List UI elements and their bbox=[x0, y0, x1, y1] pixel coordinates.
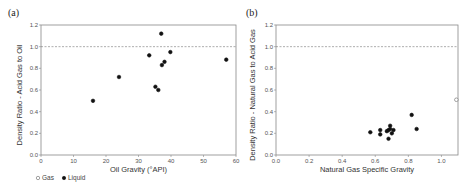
liquid-data-point bbox=[378, 133, 382, 137]
scatter-panel-a: 01020304050600.00.20.40.60.81.01.2Oil Gr… bbox=[8, 7, 240, 174]
y-tick-label: 0.0 bbox=[30, 152, 39, 158]
y-tick-label: 0.4 bbox=[265, 109, 274, 115]
y-tick-label: 0.6 bbox=[265, 87, 274, 93]
x-tick-label: 30 bbox=[135, 158, 142, 164]
plot-frame bbox=[41, 25, 236, 155]
legend-item-label: Gas bbox=[42, 174, 55, 181]
x-tick-label: 0.2 bbox=[305, 158, 314, 164]
y-tick-label: 1.0 bbox=[30, 44, 39, 50]
legend-liquid-marker-icon bbox=[62, 176, 65, 179]
legend-item-label: Liquid bbox=[68, 174, 86, 182]
y-axis-label: Density Ratio - Natural Gas to Acid Gas bbox=[248, 29, 257, 161]
liquid-data-point bbox=[387, 137, 391, 141]
x-tick-label: 0.0 bbox=[272, 158, 281, 164]
x-tick-label: 40 bbox=[168, 158, 175, 164]
panel-label: (b) bbox=[246, 7, 258, 19]
x-tick-label: 1.0 bbox=[437, 158, 446, 164]
liquid-data-point bbox=[224, 58, 228, 62]
x-tick-label: 10 bbox=[70, 158, 77, 164]
x-tick-label: 0.6 bbox=[371, 158, 380, 164]
x-tick-label: 50 bbox=[200, 158, 207, 164]
y-tick-label: 0.4 bbox=[30, 109, 39, 115]
x-tick-label: 0.8 bbox=[404, 158, 413, 164]
liquid-data-point bbox=[415, 127, 419, 131]
liquid-data-point bbox=[369, 130, 373, 134]
x-axis-label: Natural Gas Specific Gravity bbox=[320, 165, 414, 174]
legend-gas-marker-icon bbox=[36, 176, 39, 179]
liquid-data-point bbox=[157, 88, 161, 92]
y-tick-label: 0.8 bbox=[265, 65, 274, 71]
liquid-data-point bbox=[392, 128, 396, 132]
y-tick-label: 0.2 bbox=[30, 130, 39, 136]
plot-frame bbox=[276, 25, 458, 155]
liquid-data-point bbox=[91, 99, 95, 103]
y-tick-label: 0.0 bbox=[265, 152, 274, 158]
gas-data-point bbox=[455, 98, 459, 102]
y-tick-label: 1.0 bbox=[265, 44, 274, 50]
y-tick-label: 1.2 bbox=[265, 22, 274, 28]
liquid-data-point bbox=[388, 124, 392, 128]
liquid-data-point bbox=[154, 85, 158, 89]
liquid-data-point bbox=[147, 54, 151, 58]
x-tick-label: 60 bbox=[233, 158, 240, 164]
liquid-data-point bbox=[378, 128, 382, 132]
y-tick-label: 1.2 bbox=[30, 22, 39, 28]
x-tick-label: 20 bbox=[103, 158, 110, 164]
x-tick-label: 0.4 bbox=[338, 158, 347, 164]
x-axis-label: Oil Gravity (°API) bbox=[110, 165, 168, 174]
panel-label: (a) bbox=[8, 7, 19, 19]
y-tick-label: 0.6 bbox=[30, 87, 39, 93]
scatter-panel-b: 0.00.20.40.60.81.00.00.20.40.60.81.01.2N… bbox=[246, 7, 458, 174]
liquid-data-point bbox=[159, 32, 163, 36]
legend: GasLiquid bbox=[36, 174, 85, 182]
y-tick-label: 0.8 bbox=[30, 65, 39, 71]
liquid-data-point bbox=[160, 63, 164, 67]
liquid-data-point bbox=[410, 113, 414, 117]
x-tick-label: 0 bbox=[39, 158, 43, 164]
liquid-data-point bbox=[117, 75, 121, 79]
y-axis-label: Density Ratio - Acid Gas to Oil bbox=[15, 44, 24, 145]
liquid-data-point bbox=[163, 60, 167, 64]
y-tick-label: 0.2 bbox=[265, 130, 274, 136]
liquid-data-point bbox=[169, 50, 173, 54]
chart-figure: 01020304050600.00.20.40.60.81.01.2Oil Gr… bbox=[0, 0, 472, 188]
